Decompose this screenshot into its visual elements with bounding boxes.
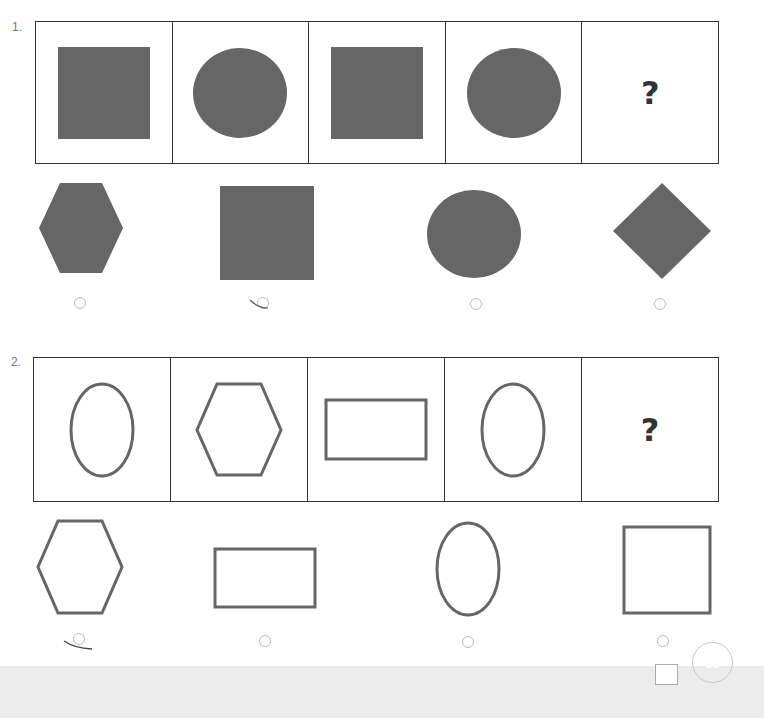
sequence-cell	[309, 22, 446, 163]
question-2-sequence: ?	[33, 357, 719, 502]
sequence-cell	[171, 358, 308, 501]
q2-option-rectangle[interactable]	[213, 547, 317, 609]
sequence-cell	[173, 22, 310, 163]
q1-option-2-radio[interactable]	[257, 297, 269, 309]
q2-option-square[interactable]	[622, 525, 712, 615]
outline-oval-icon	[68, 381, 136, 479]
outline-hexagon-icon	[194, 381, 284, 479]
q2-option-oval[interactable]	[434, 520, 502, 618]
q2-option-1-radio[interactable]	[73, 633, 85, 645]
question-mark: ?	[641, 411, 660, 449]
outline-rectangle-icon	[213, 547, 317, 609]
q2-option-2-radio[interactable]	[259, 635, 271, 647]
filled-circle-icon	[466, 47, 562, 139]
q1-option-1-radio[interactable]	[74, 297, 86, 309]
question-1-number: 1.	[12, 20, 22, 34]
page-number-badge: 35	[692, 642, 733, 683]
outline-rectangle-icon	[324, 398, 428, 462]
page-footer	[0, 666, 764, 718]
sequence-cell	[36, 22, 173, 163]
q1-option-hexagon[interactable]	[38, 182, 124, 274]
sequence-cell	[446, 22, 583, 163]
filled-circle-icon	[192, 47, 288, 139]
filled-diamond-icon	[612, 182, 712, 280]
outline-square-icon	[622, 525, 712, 615]
q1-option-circle[interactable]	[426, 189, 522, 279]
sequence-cell-unknown: ?	[582, 22, 718, 163]
sequence-cell	[34, 358, 171, 501]
sequence-cell	[445, 358, 582, 501]
filled-square-icon	[220, 186, 314, 280]
outline-oval-icon	[479, 381, 547, 479]
filled-square-icon	[56, 45, 152, 141]
question-1-sequence: ?	[35, 21, 719, 164]
outline-hexagon-icon	[36, 519, 124, 615]
sequence-cell	[308, 358, 445, 501]
q1-option-3-radio[interactable]	[470, 298, 482, 310]
q2-option-4-radio[interactable]	[657, 635, 669, 647]
filled-square-icon	[329, 45, 425, 141]
q2-option-hexagon[interactable]	[36, 519, 124, 615]
q1-option-4-radio[interactable]	[654, 298, 666, 310]
q1-option-diamond[interactable]	[612, 182, 712, 280]
sequence-cell-unknown: ?	[582, 358, 718, 501]
question-mark: ?	[641, 74, 660, 112]
checkbox-square[interactable]	[655, 664, 678, 685]
filled-hexagon-icon	[38, 182, 124, 274]
filled-circle-icon	[426, 189, 522, 279]
question-2-number: 2.	[11, 355, 21, 369]
q2-option-3-radio[interactable]	[462, 636, 474, 648]
outline-oval-icon	[434, 520, 502, 618]
q1-option-square[interactable]	[220, 186, 314, 280]
